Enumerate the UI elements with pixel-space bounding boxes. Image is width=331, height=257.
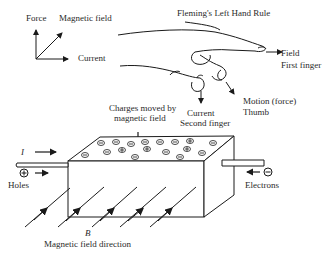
diagram-canvas bbox=[0, 0, 331, 257]
semiconductor-block bbox=[68, 136, 234, 217]
left-wire bbox=[16, 163, 68, 167]
holes-label: Holes bbox=[8, 180, 29, 190]
field-label: Field bbox=[281, 48, 300, 58]
hand-illustration bbox=[118, 22, 266, 91]
motion-arrow bbox=[226, 82, 234, 94]
second-finger-label: Second finger bbox=[180, 118, 230, 128]
field-axis-arrow bbox=[36, 33, 62, 59]
thumb-label: Thumb bbox=[243, 107, 269, 117]
diagram-title: Fleming's Left Hand Rule bbox=[177, 8, 270, 18]
charges-label-line2: magnetic field bbox=[114, 113, 166, 123]
current-axis-label: Current bbox=[78, 53, 106, 63]
axes-legend bbox=[36, 30, 68, 59]
first-finger-label: First finger bbox=[281, 60, 321, 70]
force-label: Force bbox=[26, 13, 47, 23]
charges-label-line1: Charges moved by bbox=[109, 103, 176, 113]
field-direction-label: Magnetic field direction bbox=[44, 239, 131, 249]
current-symbol-label: I bbox=[21, 147, 24, 157]
magnetic-field-label: Magnetic field bbox=[59, 13, 112, 23]
right-wire bbox=[222, 160, 264, 166]
b-symbol-label: B bbox=[85, 228, 91, 238]
motion-label: Motion (force) bbox=[243, 96, 296, 106]
current-finger-label: Current bbox=[187, 108, 215, 118]
electrons-label: Electrons bbox=[245, 180, 279, 190]
block-front-face bbox=[68, 161, 204, 217]
